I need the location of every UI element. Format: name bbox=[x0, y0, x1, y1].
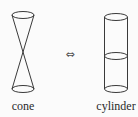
cone-bottom-ellipse bbox=[12, 86, 34, 93]
cylinder-middle-ellipse bbox=[105, 53, 128, 60]
cone-label: cone bbox=[12, 99, 35, 113]
cone-top-ellipse bbox=[12, 12, 34, 19]
cylinder-shape bbox=[105, 14, 128, 93]
cylinder-bottom-ellipse bbox=[105, 86, 128, 93]
cone-right-edge-top bbox=[23, 15, 34, 52]
cylinder-top-ellipse bbox=[105, 14, 128, 21]
diagram-canvas: ⇔ cone cylinder bbox=[0, 0, 138, 117]
cone-right-edge-bottom bbox=[23, 52, 34, 89]
cone-left-edge-top bbox=[12, 15, 23, 52]
double-cone-shape bbox=[12, 12, 34, 93]
equivalence-arrow-icon: ⇔ bbox=[65, 49, 74, 61]
cone-left-edge-bottom bbox=[12, 52, 23, 89]
cylinder-label: cylinder bbox=[96, 99, 135, 113]
